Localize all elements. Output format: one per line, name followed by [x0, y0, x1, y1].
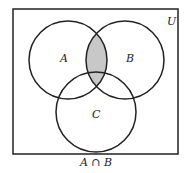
- venn-diagram: U A B C A ∩ B: [0, 0, 188, 173]
- set-c-label: C: [92, 108, 101, 121]
- set-a-label: A: [59, 52, 68, 65]
- caption: A ∩ B: [79, 156, 112, 169]
- set-b-label: B: [125, 52, 134, 65]
- universe-label: U: [167, 15, 177, 28]
